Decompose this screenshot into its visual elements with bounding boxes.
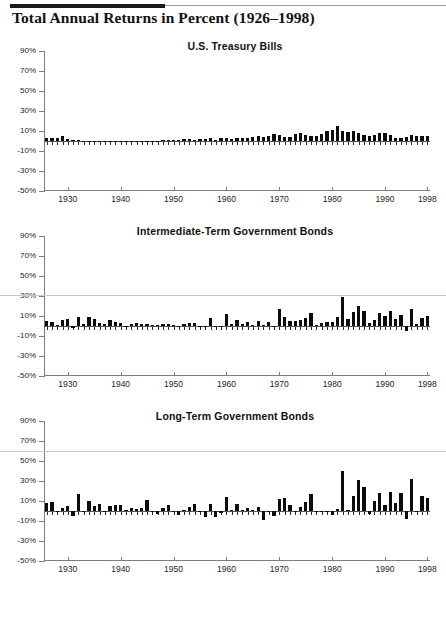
bar (77, 140, 80, 141)
x-axis-tick (332, 372, 333, 376)
x-axis-tick-label: 1940 (101, 194, 141, 204)
bar (66, 139, 69, 141)
y-axis-tick-label: -10% (2, 146, 36, 155)
year-tick (147, 327, 148, 330)
year-tick (311, 142, 312, 145)
bar (246, 508, 249, 512)
header-rule-thin (165, 5, 446, 6)
year-tick (248, 512, 249, 515)
year-tick (131, 142, 132, 145)
year-tick (290, 327, 291, 330)
y-axis-tick (39, 561, 45, 562)
bar (405, 511, 408, 519)
year-tick (179, 327, 180, 330)
bar (410, 479, 413, 511)
bar (219, 138, 222, 141)
bar (130, 324, 133, 326)
bar (336, 509, 339, 511)
bar (82, 141, 85, 142)
y-axis-tick-label: -50% (2, 186, 36, 195)
year-tick (226, 142, 227, 145)
year-tick (94, 142, 95, 145)
bar (209, 504, 212, 512)
x-axis-tick-label: 1998 (407, 564, 446, 574)
year-tick (152, 512, 153, 515)
year-tick (306, 142, 307, 145)
year-tick (142, 327, 143, 330)
year-tick (52, 327, 53, 330)
year-tick (121, 327, 122, 330)
chart-panel-intermediate-term-bonds: Intermediate-Term Government Bonds 90%70… (0, 225, 446, 415)
bar (378, 493, 381, 511)
bar (278, 135, 281, 142)
bar (177, 326, 180, 327)
bar (304, 135, 307, 141)
plot-area: 90%70%50%30%10%-10%-30%-50% (44, 51, 430, 191)
bar (98, 323, 101, 326)
year-tick (290, 142, 291, 145)
bar (145, 141, 148, 142)
y-axis-tick-label: -10% (2, 331, 36, 340)
bar (378, 313, 381, 326)
bar (267, 511, 270, 512)
bar (161, 508, 164, 511)
year-tick (385, 142, 386, 145)
y-axis-tick-label: 30% (2, 476, 36, 485)
bar (219, 326, 222, 327)
year-tick (348, 327, 349, 330)
year-tick (52, 512, 53, 515)
year-tick (89, 512, 90, 515)
year-tick (253, 327, 254, 330)
bar (299, 133, 302, 141)
year-tick (279, 327, 280, 330)
chart-panel-long-term-bonds: Long-Term Government Bonds 90%70%50%30%1… (0, 410, 446, 615)
year-tick (422, 512, 423, 515)
bar (114, 322, 117, 327)
year-tick (84, 512, 85, 515)
x-axis-tick (385, 557, 386, 561)
bar (346, 319, 349, 326)
y-axis-tick (39, 191, 45, 192)
bar (368, 511, 371, 514)
year-tick (332, 327, 333, 330)
year-tick (300, 142, 301, 145)
year-tick (364, 512, 365, 515)
bar (267, 322, 270, 327)
x-axis-tick (279, 372, 280, 376)
year-tick (337, 142, 338, 145)
bar (272, 134, 275, 141)
bar (61, 320, 64, 326)
year-tick (300, 512, 301, 515)
year-tick (152, 142, 153, 145)
x-axis-tick (427, 187, 428, 191)
year-tick (142, 512, 143, 515)
year-tick (427, 512, 428, 515)
year-tick (327, 512, 328, 515)
bar (325, 511, 328, 512)
bar (399, 493, 402, 511)
x-axis-tick-label: 1940 (101, 379, 141, 389)
year-tick (274, 142, 275, 145)
year-tick (401, 512, 402, 515)
year-tick (396, 142, 397, 145)
bar (56, 511, 59, 512)
year-tick (200, 512, 201, 515)
bar (257, 136, 260, 141)
year-tick (142, 142, 143, 145)
x-axis-tick-label: 1980 (312, 564, 352, 574)
x-axis-tick (385, 372, 386, 376)
year-tick (168, 327, 169, 330)
year-tick (211, 512, 212, 515)
bar (336, 126, 339, 141)
bar (50, 502, 53, 511)
year-tick (100, 327, 101, 330)
year-tick (258, 142, 259, 145)
bar (320, 323, 323, 327)
bar (399, 138, 402, 141)
bar (336, 317, 339, 327)
year-tick (353, 512, 354, 515)
bar (320, 134, 323, 141)
bar (294, 134, 297, 141)
bar (325, 131, 328, 141)
y-axis-tick (39, 71, 45, 72)
